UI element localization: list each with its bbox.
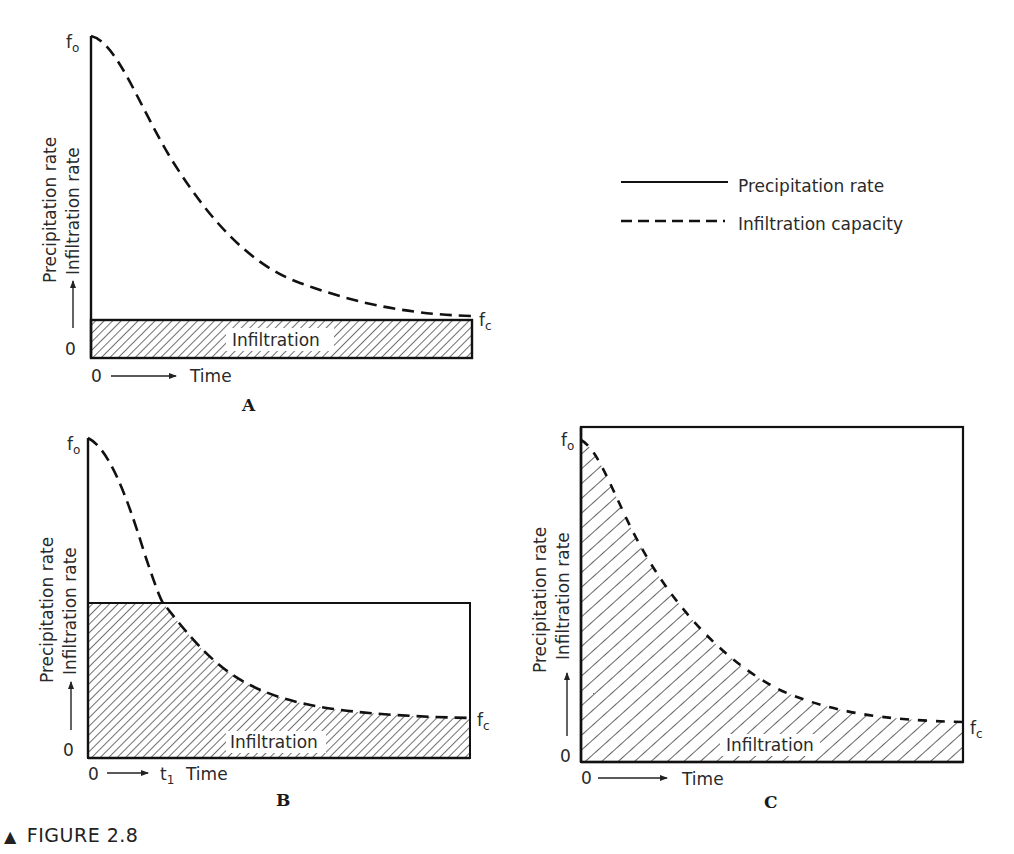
panel-b: Infiltration fo fc Precipitation rate In… — [37, 434, 490, 810]
legend: Precipitation rate Infiltration capacity — [621, 176, 903, 234]
time-label: Time — [681, 769, 724, 789]
panel-letter-b: B — [276, 790, 290, 810]
figure-caption-text: FIGURE 2.8 — [27, 824, 139, 846]
f0-label: fo — [67, 434, 80, 457]
legend-precipitation-label: Precipitation rate — [738, 176, 884, 196]
y-axis-label-infiltration: Infiltration rate — [63, 147, 83, 275]
zero-y-label: 0 — [65, 339, 76, 359]
zero-x-label: 0 — [581, 768, 592, 788]
panel-a: Infiltration fo fc Precipitation rate In… — [40, 32, 492, 415]
infiltration-label: Infiltration — [230, 732, 318, 752]
zero-x-label: 0 — [88, 764, 99, 784]
panel-letter-c: C — [764, 792, 778, 812]
y-axis-label-precipitation: Precipitation rate — [37, 537, 57, 683]
triangle-marker-icon: ▲ — [4, 827, 17, 846]
t1-label: t1 — [160, 764, 174, 787]
y-axis-label-precipitation: Precipitation rate — [40, 137, 60, 283]
y-axis-label-precipitation: Precipitation rate — [530, 527, 550, 673]
fc-label: fc — [477, 710, 490, 733]
figure-caption: ▲FIGURE 2.8 — [4, 824, 138, 846]
y-axis-label-infiltration: Infiltration rate — [60, 547, 80, 675]
zero-x-label: 0 — [91, 366, 102, 386]
figure-canvas: Infiltration fo fc Precipitation rate In… — [0, 0, 1014, 854]
fc-label: fc — [479, 310, 492, 333]
infiltration-area — [581, 440, 963, 762]
y-axis-label-infiltration: Infiltration rate — [553, 532, 573, 660]
zero-y-label: 0 — [560, 746, 571, 766]
infiltration-label: Infiltration — [232, 330, 320, 350]
fc-label: fc — [970, 718, 983, 741]
infiltration-label: Infiltration — [726, 735, 814, 755]
panel-letter-a: A — [241, 395, 256, 415]
f0-label: fo — [66, 32, 79, 55]
zero-y-label: 0 — [63, 740, 74, 760]
panel-c: Infiltration fo fc Precipitation rate In… — [530, 427, 983, 812]
f0-label: fo — [561, 430, 574, 453]
infiltration-capacity-curve — [91, 36, 472, 316]
time-label: Time — [189, 366, 232, 386]
legend-infiltration-label: Infiltration capacity — [738, 214, 903, 234]
time-label: Time — [185, 764, 228, 784]
